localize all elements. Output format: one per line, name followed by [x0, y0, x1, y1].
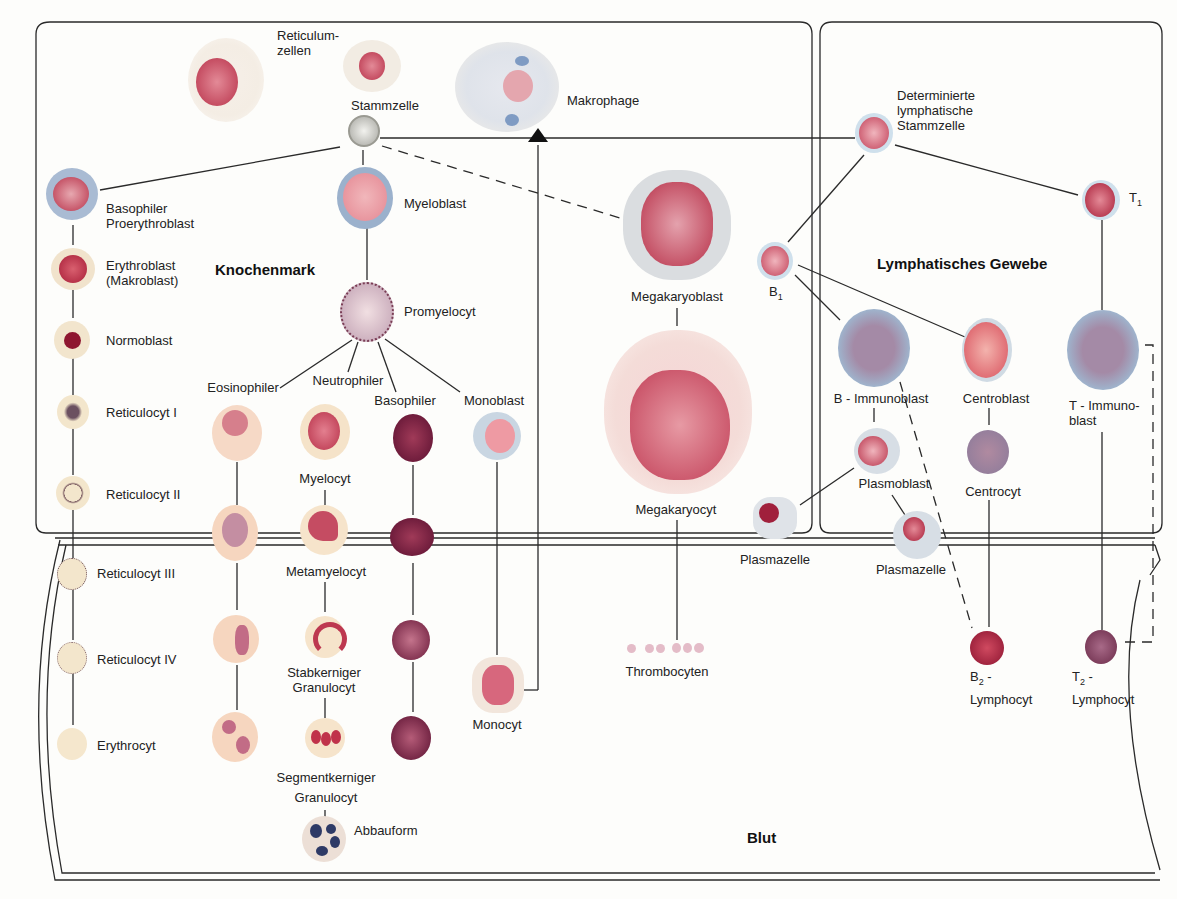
label-erythrocyte: Erythrocyt [97, 738, 156, 753]
centroblast [962, 318, 1012, 382]
label-reticulocyte-1: Reticulocyt I [106, 405, 177, 420]
platelet [694, 643, 704, 653]
eosinophilic-segmented [212, 712, 258, 762]
label-myelocyte: Myelocyt [299, 471, 350, 486]
label-megakaryoblast: Megakaryoblast [631, 289, 723, 304]
determined-lymphoid-stem-cell [855, 113, 893, 153]
arrow-up-icon [528, 128, 548, 142]
reticulocyte-2 [56, 476, 90, 510]
region-lymphatic-tissue: Lymphatisches Gewebe [877, 255, 1047, 272]
platelet [656, 644, 665, 653]
label-plasma-cell-2: Plasmazelle [876, 562, 946, 577]
stem-cell [348, 115, 380, 147]
erythroblast [51, 248, 95, 290]
basophilic-proerythroblast [46, 168, 98, 220]
label-b2-lymphocyte: B2 - Lymphocyt [970, 668, 1032, 709]
label-plasma-cell-1: Plasmazelle [740, 552, 810, 567]
platelet [683, 643, 692, 653]
b-immunoblast [838, 309, 910, 387]
degradation-form [302, 816, 346, 862]
reticulocyte-4 [57, 642, 87, 674]
label-b-immunoblast: B - Immunoblast [834, 391, 929, 406]
label-t2-lymphocyte: T2 - Lymphocyt [1072, 668, 1134, 709]
label-monoblast: Monoblast [464, 393, 524, 408]
label-t-immunoblast: T - Immuno- blast [1069, 398, 1140, 428]
b2-lymphocyte [970, 631, 1004, 665]
t1-lymphocyte [1082, 180, 1120, 220]
centrocyte [967, 430, 1009, 474]
promyelocyte [340, 282, 394, 342]
basophilic-segmented [391, 716, 431, 760]
plasmoblast [854, 428, 900, 474]
label-segmented-granulocyte: Segmentkerniger Granulocyt [277, 768, 376, 808]
label-promyelocyte: Promyelocyt [404, 304, 476, 319]
basophilic-myelocyte [393, 414, 433, 462]
reticulocyte-1 [57, 395, 89, 429]
label-erythroblast: Erythroblast (Makroblast) [106, 258, 178, 288]
label-monocyte: Monocyt [472, 717, 521, 732]
label-degradation-form: Abbauform [354, 823, 418, 838]
label-myeloblast: Myeloblast [404, 196, 466, 211]
label-eosinophil: Eosinophiler [207, 380, 279, 395]
megakaryocyte [604, 330, 752, 494]
label-megakaryocyte: Megakaryocyt [636, 502, 717, 517]
band-neutrophil [305, 616, 345, 658]
region-bone-marrow: Knochenmark [215, 261, 315, 278]
eosinophilic-myelocyte [212, 405, 262, 461]
macrophage-cell [455, 42, 559, 132]
label-centroblast: Centroblast [963, 391, 1029, 406]
eosinophilic-band [213, 615, 259, 663]
label-normoblast: Normoblast [106, 333, 172, 348]
b1-lymphocyte [757, 242, 793, 280]
label-basophil: Basophiler [374, 393, 435, 408]
hematopoiesis-diagram: Knochenmark Lymphatisches Gewebe Blut Re… [0, 0, 1177, 899]
label-plasmoblast: Plasmoblast [859, 476, 930, 491]
label-centrocyte: Centrocyt [965, 484, 1021, 499]
label-reticulum-cells: Reticulum- zellen [277, 28, 339, 58]
monocyte [472, 657, 524, 713]
reticulocyte-3 [57, 558, 87, 590]
label-t1: T1 [1129, 190, 1142, 211]
label-stem-cell: Stammzelle [351, 98, 419, 113]
erythrocyte [57, 728, 87, 760]
basophilic-band [392, 620, 430, 660]
reticulum-cell-large [188, 38, 264, 122]
platelet [627, 644, 636, 653]
label-reticulocyte-2: Reticulocyt II [106, 487, 180, 502]
plasma-cell-2 [893, 511, 941, 559]
platelet [672, 643, 681, 653]
label-b1: B1 [769, 284, 783, 305]
region-blood: Blut [747, 829, 776, 846]
label-neutrophil: Neutrophiler [313, 373, 384, 388]
megakaryoblast [623, 170, 731, 280]
monoblast-cell [473, 412, 521, 460]
label-band-granulocyte: Stabkerniger Granulocyt [287, 665, 361, 695]
label-determined-lymphoid-stem-cell: Determinierte lymphatische Stammzelle [897, 88, 975, 133]
segmented-neutrophil [305, 718, 345, 758]
myeloblast [337, 167, 393, 229]
reticulum-cell-small [343, 40, 401, 92]
label-macrophage: Makrophage [567, 93, 639, 108]
plasma-cell-1 [753, 497, 797, 539]
label-basophilic-proerythroblast: Basophiler Proerythroblast [106, 201, 194, 231]
platelet [645, 644, 654, 653]
label-reticulocyte-3: Reticulocyt III [97, 566, 175, 581]
neutrophilic-myelocyte [300, 404, 350, 460]
label-reticulocyte-4: Reticulocyt IV [97, 652, 176, 667]
t2-lymphocyte [1085, 630, 1117, 664]
label-thrombocytes: Thrombocyten [625, 664, 708, 679]
t-immunoblast [1067, 310, 1139, 390]
eosinophilic-metamyelocyte [212, 505, 258, 561]
neutrophilic-metamyelocyte [300, 505, 348, 555]
label-metamyelocyte: Metamyelocyt [286, 564, 366, 579]
basophilic-metamyelocyte [390, 518, 434, 556]
normoblast [54, 321, 90, 359]
